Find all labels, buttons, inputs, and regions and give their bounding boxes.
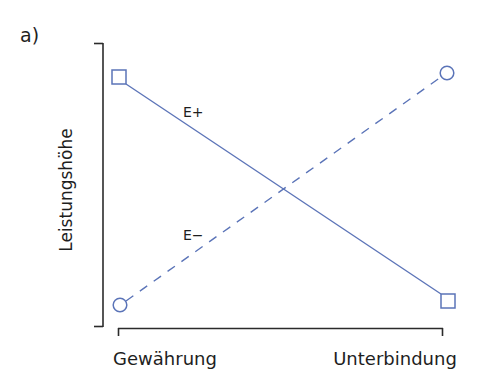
square-marker-icon: [441, 294, 455, 308]
e-minus-label: E−: [183, 227, 204, 243]
square-marker-icon: [112, 70, 126, 84]
e-plus-label: E+: [183, 104, 204, 120]
circle-marker-icon: [113, 298, 127, 312]
x-category-gewaehrung: Gewährung: [113, 348, 217, 369]
chart-canvas: a) Leistungshöhe Gewährung Unterbindung …: [0, 0, 490, 392]
panel-label: a): [20, 24, 39, 46]
x-category-unterbindung: Unterbindung: [333, 348, 457, 369]
y-axis-label: Leistungshöhe: [56, 128, 76, 251]
series-e-minus: E−: [113, 66, 454, 312]
circle-marker-icon: [440, 66, 454, 80]
x-axis: [118, 328, 443, 336]
y-axis: [94, 43, 103, 327]
e-minus-line: [126, 77, 441, 301]
